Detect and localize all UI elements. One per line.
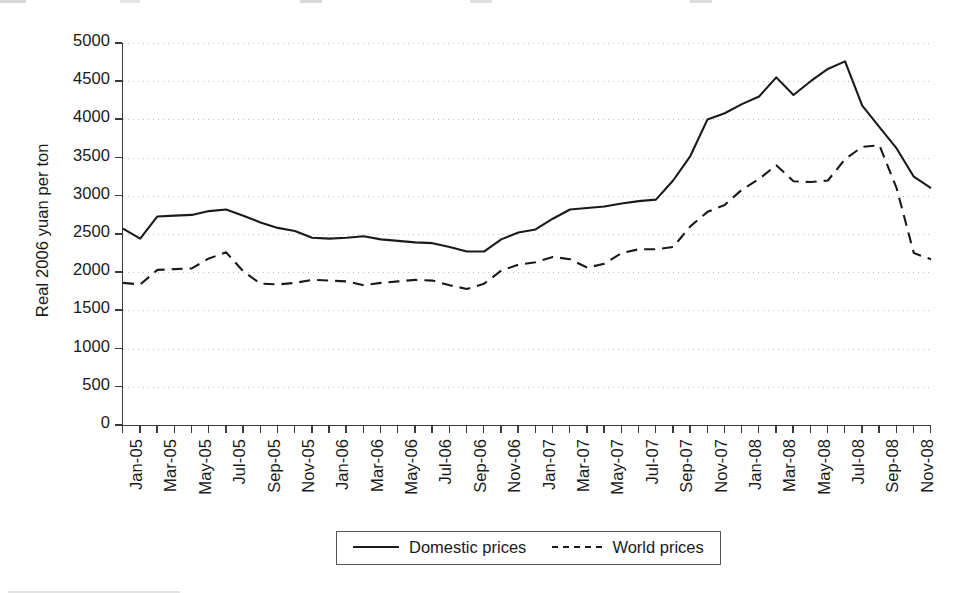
- y-axis-tick-mark: [115, 80, 122, 82]
- y-axis-tick-label: 4500: [73, 70, 110, 87]
- x-axis-tick-label: Sep-08: [884, 439, 901, 493]
- x-axis-tick-label: Jan-08: [747, 439, 764, 490]
- x-axis-tick-mark: [569, 425, 570, 433]
- x-axis-tick-label: Nov-05: [300, 439, 317, 493]
- y-axis-tick-label: 1000: [73, 338, 110, 355]
- x-axis-tick-mark: [431, 425, 432, 433]
- x-axis-tick-mark: [380, 425, 381, 433]
- x-axis-tick-label: May-06: [403, 439, 420, 495]
- y-axis-tick-mark: [115, 118, 122, 120]
- x-axis-tick-label: Jan-06: [334, 439, 351, 490]
- x-axis-tick-mark: [621, 425, 622, 433]
- x-axis-tick-mark: [827, 425, 828, 433]
- x-axis-tick-mark: [397, 425, 398, 433]
- x-axis-tick-label: Nov-08: [919, 439, 936, 493]
- x-axis-ticks: Jan-05Mar-05May-05Jul-05Sep-05Nov-05Jan-…: [0, 425, 954, 593]
- x-axis-tick-mark: [139, 425, 140, 433]
- x-axis-tick-mark: [483, 425, 484, 433]
- y-axis-tick-mark: [115, 386, 122, 388]
- x-axis-tick-label: Sep-06: [472, 439, 489, 493]
- x-axis-tick-mark: [672, 425, 673, 433]
- x-axis-tick-mark: [156, 425, 157, 433]
- x-axis-tick-mark: [707, 425, 708, 433]
- y-axis-tick-mark: [115, 309, 122, 311]
- x-axis-tick-mark: [552, 425, 553, 433]
- x-axis-tick-label: Nov-06: [506, 439, 523, 493]
- y-axis-tick-mark: [115, 348, 122, 350]
- x-axis-tick-label: May-08: [816, 439, 833, 495]
- x-axis-tick-label: Sep-07: [678, 439, 695, 493]
- x-axis-tick-mark: [655, 425, 656, 433]
- scan-artifact-top: [0, 0, 954, 3]
- x-axis-tick-mark: [603, 425, 604, 433]
- y-axis-tick-mark: [115, 42, 122, 44]
- x-axis-tick-mark: [517, 425, 518, 433]
- x-axis-tick-label: Mar-06: [369, 439, 386, 492]
- x-axis-tick-mark: [535, 425, 536, 433]
- x-axis-tick-mark: [689, 425, 690, 433]
- y-axis-tick-label: 3500: [73, 147, 110, 164]
- x-axis-tick-label: Jan-07: [541, 439, 558, 490]
- x-axis-tick-mark: [861, 425, 862, 433]
- series-line-domestic-prices: [123, 61, 931, 251]
- plot-lines: [123, 43, 931, 425]
- x-axis-tick-label: May-07: [609, 439, 626, 495]
- x-axis-tick-mark: [311, 425, 312, 433]
- x-axis-tick-mark: [844, 425, 845, 433]
- x-axis-tick-label: Jul-07: [644, 439, 661, 485]
- x-axis-tick-label: Jul-05: [231, 439, 248, 485]
- x-axis-tick-mark: [328, 425, 329, 433]
- plot-frame: [122, 43, 931, 426]
- x-axis-tick-label: Nov-07: [713, 439, 730, 493]
- x-axis-tick-label: Mar-05: [162, 439, 179, 492]
- x-axis-tick-mark: [466, 425, 467, 433]
- y-axis-tick-label: 5000: [73, 32, 110, 49]
- x-axis-tick-mark: [260, 425, 261, 433]
- x-axis-tick-mark: [586, 425, 587, 433]
- x-axis-tick-label: Jan-05: [128, 439, 145, 490]
- x-axis-tick-mark: [775, 425, 776, 433]
- x-axis-tick-mark: [294, 425, 295, 433]
- legend: Domestic prices World prices: [336, 531, 721, 565]
- x-axis-tick-label: Mar-08: [781, 439, 798, 492]
- legend-label-world-prices: World prices: [612, 539, 703, 556]
- x-axis-tick-mark: [896, 425, 897, 433]
- y-axis-tick-label: 3000: [73, 185, 110, 202]
- x-axis-tick-mark: [741, 425, 742, 433]
- y-axis-tick-label: 4000: [73, 108, 110, 125]
- x-axis-tick-mark: [638, 425, 639, 433]
- y-axis-tick-mark: [115, 271, 122, 273]
- x-axis-tick-mark: [913, 425, 914, 433]
- x-axis-tick-mark: [758, 425, 759, 433]
- x-axis-tick-mark: [414, 425, 415, 433]
- series-line-world-prices: [123, 145, 931, 289]
- x-axis-tick-mark: [449, 425, 450, 433]
- y-axis-tick-mark: [115, 157, 122, 159]
- x-axis-tick-mark: [242, 425, 243, 433]
- x-axis-tick-label: May-05: [197, 439, 214, 495]
- y-axis-tick-label: 2000: [73, 261, 110, 278]
- x-axis-tick-mark: [500, 425, 501, 433]
- x-axis-tick-mark: [225, 425, 226, 433]
- legend-entry-domestic-prices: Domestic prices: [353, 539, 526, 556]
- y-axis-tick-label: 500: [82, 376, 110, 393]
- y-axis-ticks: 0500100015002000250030003500400045005000: [0, 0, 122, 470]
- y-axis-tick-mark: [115, 233, 122, 235]
- legend-entry-world-prices: World prices: [552, 539, 703, 556]
- x-axis-tick-label: Sep-05: [266, 439, 283, 493]
- chart-figure: Real 2006 yuan per ton 05001000150020002…: [0, 0, 954, 593]
- legend-swatch-dashed-line-icon: [552, 546, 602, 548]
- x-axis-tick-mark: [208, 425, 209, 433]
- x-axis-tick-mark: [191, 425, 192, 433]
- x-axis-tick-label: Jul-08: [850, 439, 867, 485]
- x-axis-tick-mark: [345, 425, 346, 433]
- legend-label-domestic-prices: Domestic prices: [409, 539, 526, 556]
- x-axis-tick-mark: [930, 425, 931, 433]
- x-axis-tick-mark: [792, 425, 793, 433]
- y-axis-tick-mark: [115, 195, 122, 197]
- x-axis-tick-mark: [810, 425, 811, 433]
- x-axis-tick-label: Jul-06: [437, 439, 454, 485]
- legend-swatch-solid-line-icon: [353, 546, 399, 548]
- y-axis-tick-label: 1500: [73, 299, 110, 316]
- x-axis-tick-mark: [878, 425, 879, 433]
